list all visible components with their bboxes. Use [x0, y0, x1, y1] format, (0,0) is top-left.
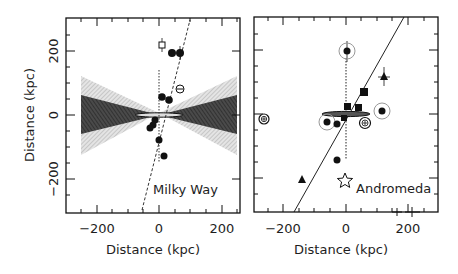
figure: Milky Way −200 0 200 Distance (kpc) 200 … [0, 0, 458, 274]
x-tick-label: 200 [210, 221, 235, 236]
circle-cross-marker [259, 114, 269, 124]
circled-filled-circle-marker [339, 41, 355, 62]
filled-circle-marker [161, 153, 168, 160]
y-axis-title: Distance (kpc) [22, 68, 37, 162]
filled-triangle-marker [298, 175, 306, 183]
filled-circle-marker [334, 121, 341, 128]
x-tick-label: 0 [155, 221, 163, 236]
x-tick-label: 200 [396, 221, 421, 236]
filled-square-marker [360, 88, 368, 96]
theta-circle-marker [176, 85, 184, 93]
circled-filled-circle-marker [319, 114, 335, 130]
filled-circle-marker [156, 137, 163, 144]
circled-filled-circle-marker [374, 103, 390, 119]
cross-marker [392, 207, 420, 217]
filled-square-marker [341, 115, 347, 121]
x-axis-title: Distance (kpc) [294, 242, 388, 257]
circle-cross-marker [360, 118, 371, 129]
filled-circle-marker [334, 157, 341, 164]
y-tick-label: 200 [46, 39, 61, 64]
milky-way-panel: Milky Way −200 0 200 Distance (kpc) 200 … [22, 18, 240, 257]
filled-circle-marker [165, 96, 173, 104]
filled-circle-marker [147, 125, 154, 132]
x-tick-label: −200 [265, 221, 301, 236]
filled-circle-marker [158, 93, 166, 101]
panel-label-andromeda: Andromeda [356, 181, 431, 196]
x-tick-label: −200 [79, 221, 115, 236]
milky-way-markers [147, 38, 185, 160]
x-tick-label: 0 [342, 221, 350, 236]
filled-triangle-errorbar-marker [378, 67, 390, 86]
andromeda-panel: Andromeda −200 0 200 Distance (kpc) [254, 17, 438, 257]
open-star-marker [337, 173, 352, 187]
open-square-marker [159, 38, 165, 52]
panel-label-milky-way: Milky Way [153, 182, 218, 197]
y-tick-label: 0 [46, 111, 61, 119]
filled-circle-marker [168, 46, 184, 60]
x-axis-title: Distance (kpc) [106, 242, 200, 257]
filled-square-marker [355, 104, 362, 111]
y-tick-label: −200 [46, 161, 61, 197]
filled-square-marker [344, 103, 351, 110]
